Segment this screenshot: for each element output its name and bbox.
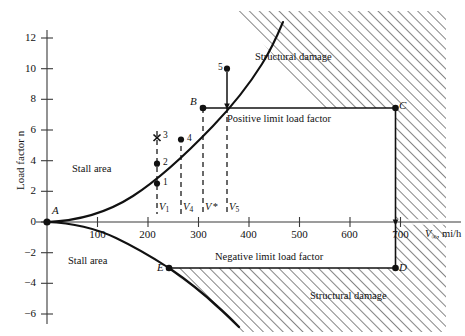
speed-label-v1: V1 [159,202,169,213]
x-tick-label-100: 100 [77,229,118,240]
speed-label-v4: V4 [183,202,193,213]
annotation-negative-limit: Negative limit load factor [215,252,323,263]
data-point-5-marker [224,66,230,72]
annotation-positive-limit: Positive limit load factor [227,114,331,125]
corner-label-B: B [190,96,197,107]
point-marker-E [166,265,173,272]
y-tick-label-neg6: −6 [2,308,36,319]
y-tick-label-6: 6 [6,124,36,135]
corner-label-C: C [399,100,406,111]
x-axis-title: V∞, mi/h [425,229,461,240]
annotation-structural-damage-bottom: Structural damage [310,291,387,302]
data-point-2-marker [154,161,160,167]
annotation-stall-area-lower: Stall area [68,256,107,267]
y-tick-label-8: 8 [6,93,36,104]
annotation-stall-area-upper: Stall area [72,164,111,175]
x-tick-label-500: 500 [279,229,320,240]
annotation-structural-damage-top: Structural damage [255,52,332,63]
point-marker-B [200,105,207,112]
vn-diagram-figure: Load factor n 12 10 8 6 4 2 0 −2 −4 −6 1… [0,0,465,336]
data-point-label-1: 1 [163,178,168,188]
y-tick-label-neg2: −2 [2,247,36,258]
corner-label-D: D [399,262,407,273]
point-marker-C [392,105,399,112]
speed-label-v5: V5 [229,202,239,213]
corner-label-E: E [157,262,164,273]
data-point-label-3: 3 [163,131,168,141]
y-tick-label-4: 4 [6,155,36,166]
point-marker-A [43,218,50,225]
x-tick-label-300: 300 [178,229,219,240]
x-tick-label-200: 200 [127,229,168,240]
plot-canvas [0,0,465,336]
y-tick-label-0: 0 [6,216,36,227]
x-tick-label-700: 700 [380,229,421,240]
speed-label-vstar: V * [205,202,218,213]
x-tick-label-600: 600 [329,229,370,240]
x-tick-label-400: 400 [228,229,269,240]
y-tick-label-2: 2 [6,185,36,196]
data-point-label-5: 5 [218,63,223,73]
y-tick-label-12: 12 [6,32,36,43]
y-tick-label-neg4: −4 [2,277,36,288]
data-point-label-2: 2 [163,158,168,168]
point-marker-D [392,265,399,272]
corner-label-A: A [52,205,59,216]
data-point-1-marker [154,180,160,186]
data-point-label-4: 4 [187,134,192,144]
data-point-4-marker [178,136,184,142]
y-tick-label-10: 10 [6,63,36,74]
